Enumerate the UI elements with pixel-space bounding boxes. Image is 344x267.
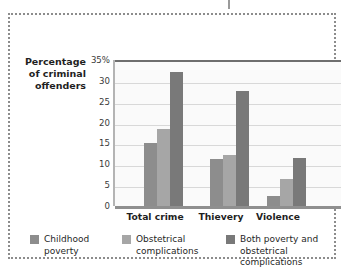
gridline: [115, 104, 341, 105]
y-axis-tick-label: 5: [82, 180, 110, 190]
y-axis-tick-labels: 35%302520151050: [80, 60, 110, 206]
y-axis-tick-label: 15: [82, 138, 110, 148]
legend-swatch-icon: [226, 235, 235, 244]
bar: [280, 179, 293, 208]
legend-label: Childhood poverty: [44, 234, 89, 257]
top-edge-tick-mark: [228, 0, 230, 9]
legend-label: Obstetrical complications: [136, 234, 198, 257]
legend-item: Obstetrical complications: [122, 234, 198, 257]
x-axis-category-label: Violence: [256, 211, 300, 222]
y-axis-line: [113, 60, 115, 206]
plot-area: [115, 60, 341, 208]
y-axis-tick-label: 30: [82, 76, 110, 86]
legend-label: Both poverty and obstetrical complicatio…: [240, 234, 342, 267]
legend-swatch-icon: [30, 235, 39, 244]
y-axis-tick-label: 25: [82, 97, 110, 107]
legend-item: Both poverty and obstetrical complicatio…: [226, 234, 342, 267]
x-axis-category-label: Total crime: [126, 211, 183, 222]
y-axis-title: Percentage of criminal offenders: [18, 56, 86, 93]
bar: [157, 129, 170, 208]
bar: [210, 159, 223, 208]
bar: [236, 91, 249, 208]
y-axis-tick-label: 0: [82, 201, 110, 211]
chart-legend: Childhood povertyObstetrical complicatio…: [22, 234, 342, 266]
bar: [293, 158, 306, 208]
legend-swatch-icon: [122, 235, 131, 244]
y-axis-tick-label: 10: [82, 159, 110, 169]
bar: [223, 155, 236, 208]
gridline: [115, 83, 341, 84]
y-axis-tick-label: 20: [82, 118, 110, 128]
gridline: [115, 125, 341, 126]
x-axis-category-label: Thievery: [199, 211, 244, 222]
bar: [144, 143, 157, 208]
bar: [170, 72, 183, 208]
y-axis-tick-label: 35%: [82, 55, 110, 65]
legend-item: Childhood poverty: [30, 234, 89, 257]
x-axis-line: [115, 206, 341, 209]
chart-figure-frame: Percentage of criminal offenders 35%3025…: [8, 13, 336, 259]
